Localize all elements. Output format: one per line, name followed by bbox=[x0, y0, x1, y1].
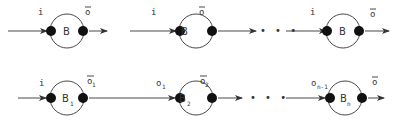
input-label: i bbox=[38, 7, 43, 17]
output-port bbox=[357, 93, 367, 103]
output-label: o bbox=[370, 9, 375, 19]
block-label: B bbox=[339, 26, 346, 37]
output-label: o bbox=[372, 77, 377, 87]
row-identical-chain: i B o i B o • • • i B o bbox=[8, 7, 389, 48]
block-chain-diagram: i B o i B o • • • i B o bbox=[0, 0, 408, 124]
block-1: i B o bbox=[8, 7, 107, 48]
block-label: B bbox=[179, 93, 186, 104]
output-port bbox=[78, 93, 88, 103]
input-label: i bbox=[310, 7, 315, 17]
output-port bbox=[207, 26, 217, 36]
output-subscript: 1 bbox=[92, 81, 96, 88]
block-label: B bbox=[181, 26, 188, 37]
block-subscript: n bbox=[347, 100, 351, 107]
output-label: o bbox=[199, 7, 204, 17]
input-label: i bbox=[151, 7, 156, 17]
block-n: o n-1 B n o bbox=[286, 77, 384, 115]
block-2: i B o bbox=[130, 7, 256, 48]
input-subscript: n-1 bbox=[317, 83, 328, 90]
block-label: B bbox=[62, 93, 69, 104]
output-port bbox=[207, 93, 217, 103]
output-label: o bbox=[85, 7, 90, 17]
output-subscript: 2 bbox=[205, 81, 209, 88]
block-subscript: 1 bbox=[70, 100, 74, 107]
input-label: i bbox=[39, 78, 44, 88]
block-1: i B 1 o 1 bbox=[18, 76, 175, 115]
input-subscript: 1 bbox=[162, 83, 166, 90]
block-label: B bbox=[63, 26, 70, 37]
input-port bbox=[325, 93, 335, 103]
input-label: o bbox=[311, 78, 316, 88]
block-3: i B o bbox=[286, 7, 389, 48]
block-subscript: 2 bbox=[187, 100, 191, 107]
output-port bbox=[78, 26, 88, 36]
block-label: B bbox=[340, 93, 347, 104]
input-port bbox=[322, 26, 332, 36]
block-2: o 1 B 2 o 2 bbox=[156, 76, 242, 115]
input-port bbox=[46, 93, 56, 103]
output-port bbox=[354, 26, 364, 36]
ellipsis: • • • bbox=[260, 25, 299, 36]
input-port bbox=[46, 26, 56, 36]
input-label: o bbox=[156, 78, 161, 88]
row-composed-chain: i B 1 o 1 o 1 B 2 o 2 • • • bbox=[18, 76, 384, 115]
ellipsis: • • • bbox=[250, 92, 289, 103]
